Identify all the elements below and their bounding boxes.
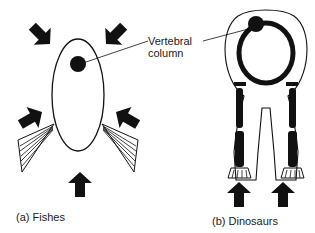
caption-dinosaurs: (b) Dinosaurs	[212, 215, 278, 227]
pelvis-right	[286, 82, 298, 86]
fish-vertebral-column-dot	[70, 56, 86, 72]
fish-right-fin	[102, 124, 138, 172]
vertebral-column-label: Vertebral column	[148, 35, 192, 59]
caption-fishes: (a) Fishes	[16, 211, 65, 223]
callout-line2: column	[148, 47, 192, 59]
dinosaur-left-leg	[228, 88, 251, 178]
dinosaur-right-leg	[281, 88, 304, 178]
dinosaur-vertebral-column-dot	[248, 16, 264, 32]
arrow-up-icon	[227, 182, 251, 207]
arrow-down-right-icon	[24, 18, 59, 53]
pelvis-left	[234, 82, 246, 86]
fish-body-outline	[52, 39, 104, 151]
dinosaur-rib-cage	[239, 23, 293, 83]
figure-canvas: Vertebral column (a) Fishes (b) Dinosaur…	[0, 0, 315, 233]
arrow-up-icon	[271, 182, 295, 207]
arrow-up-icon	[68, 172, 92, 197]
dinosaur-cross-section	[225, 10, 307, 207]
fish-cross-section	[14, 18, 143, 197]
fish-pressure-arrows	[14, 18, 143, 197]
fish-left-fin	[18, 124, 54, 172]
callout-line1: Vertebral	[148, 35, 192, 47]
arrow-down-left-icon	[98, 18, 133, 53]
